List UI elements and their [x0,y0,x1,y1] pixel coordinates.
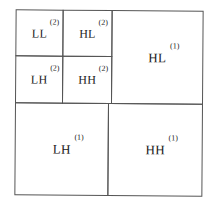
subband-lh1-level: (1) [74,134,83,142]
subband-hh2-level: (2) [99,65,108,73]
subband-ll2: LL(2) [15,9,63,56]
subband-hh2-label: HH(2) [78,74,96,86]
subband-lh2-name: LH [31,72,48,86]
subband-hl1-name: HL [148,50,166,65]
subband-hh1-label: HH(1) [145,143,164,156]
subband-lh1-label: LH(1) [53,143,71,156]
subband-hl2-name: HL [79,26,96,40]
subband-hl1-level: (1) [170,42,179,50]
subband-hl1-label: HL(1) [148,51,166,64]
subband-ll2-level: (2) [50,18,59,26]
subband-hl2-label: HL(2) [79,27,96,39]
subband-hh1-name: HH [145,142,164,157]
subband-hh1: HH(1) [107,103,203,197]
subband-diagram: LL(2) HL(2) LH(2) HH(2) HL(1) LH(1) HH(1… [14,9,203,196]
subband-hh2: HH(2) [62,56,112,104]
subband-hl1: HL(1) [111,10,204,105]
subband-hh2-name: HH [78,73,96,87]
subband-ll2-name: LL [32,26,47,40]
subband-hl2-level: (2) [99,18,108,26]
subband-lh1: LH(1) [14,102,109,196]
subband-lh1-name: LH [53,142,71,157]
subband-hh1-level: (1) [169,134,178,142]
subband-ll2-label: LL(2) [32,27,47,39]
subband-lh2-label: LH(2) [31,73,48,85]
subband-hl2: HL(2) [62,10,112,57]
subband-lh2: LH(2) [15,55,63,103]
subband-lh2-level: (2) [50,65,59,73]
